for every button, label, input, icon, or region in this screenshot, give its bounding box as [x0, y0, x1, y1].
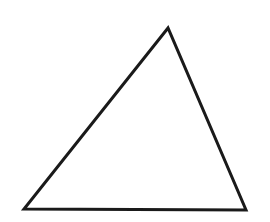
diagram-canvas: [0, 0, 270, 222]
triangle-shape: [24, 28, 246, 210]
diagram-svg: [0, 0, 270, 222]
